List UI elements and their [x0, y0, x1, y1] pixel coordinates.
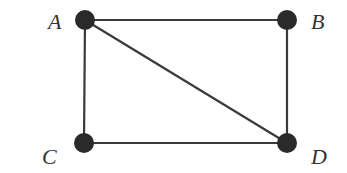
node-b: [277, 10, 297, 30]
node-a: [75, 10, 95, 30]
edges-group: [84, 20, 287, 143]
node-label-b: B: [311, 9, 324, 34]
edge-a-d: [85, 20, 287, 143]
node-label-d: D: [310, 144, 327, 169]
node-d: [277, 133, 297, 153]
graph-diagram: ABCD: [0, 0, 347, 173]
node-c: [74, 133, 94, 153]
node-label-a: A: [46, 9, 62, 34]
node-label-c: C: [42, 144, 57, 169]
edge-a-c: [84, 20, 85, 143]
